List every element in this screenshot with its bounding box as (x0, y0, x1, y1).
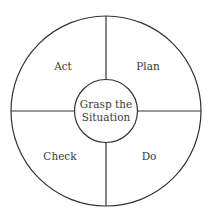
quadrant-label-do: Do (142, 150, 157, 162)
quadrant-label-plan: Plan (136, 60, 160, 72)
pdca-cycle-diagram: Act Plan Check Do Grasp the Situation (0, 0, 213, 216)
center-label-line2: Situation (82, 111, 131, 123)
center-label-line1: Grasp the (80, 98, 132, 110)
quadrant-label-check: Check (43, 150, 77, 162)
quadrant-label-act: Act (53, 60, 72, 72)
